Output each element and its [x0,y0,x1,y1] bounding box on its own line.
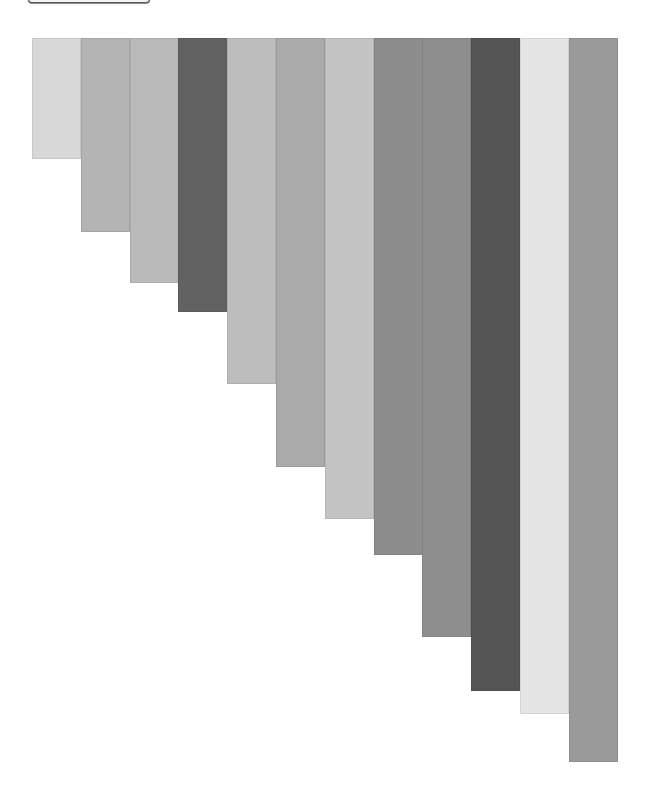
bar-7 [325,38,374,519]
bar-12 [569,38,618,762]
bar-1 [32,38,81,159]
bar-2 [81,38,130,232]
bar-5 [227,38,276,384]
bar-4 [178,38,227,312]
bar-8 [374,38,423,555]
bar-3 [130,38,179,283]
bar-6 [276,38,325,467]
bar-10 [471,38,520,691]
bar-11 [520,38,569,714]
bar-chart [0,0,645,785]
bar-9 [422,38,471,637]
